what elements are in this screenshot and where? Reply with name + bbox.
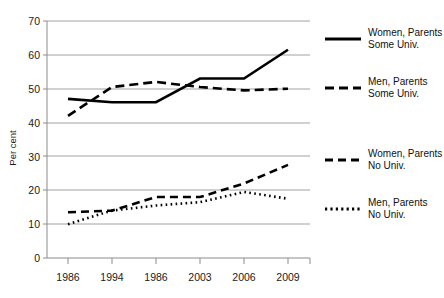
- legend-item-women-some-univ[interactable]: Women, Parents Some Univ.: [325, 27, 442, 50]
- x-tick-label-1: 1994: [100, 271, 124, 283]
- legend-label-line2: No Univ.: [368, 209, 406, 220]
- legend-item-women-no-univ[interactable]: Women, Parents No Univ.: [325, 148, 442, 171]
- legend-label-line1: Women, Parents: [368, 27, 442, 38]
- legend-label-line1: Men, Parents: [368, 76, 427, 87]
- series-men-parents-no-univ: [68, 192, 288, 224]
- series-women-parents-some-univ: [68, 50, 288, 102]
- y-tick-label-70: 70: [28, 15, 40, 27]
- legend-label-line2: Some Univ.: [368, 39, 419, 50]
- legend-item-men-no-univ[interactable]: Men, Parents No Univ.: [325, 197, 427, 220]
- series-men-parents-some-univ: [68, 82, 288, 116]
- x-tick-label-5: 2009: [276, 271, 300, 283]
- line-chart: Per cent 70 60 50 40 30 20 10 0: [0, 0, 444, 298]
- x-tick-label-4: 2006: [232, 271, 256, 283]
- x-tick-label-0: 1986: [56, 271, 80, 283]
- y-tick-label-10: 10: [28, 218, 40, 230]
- y-tick-label-0: 0: [34, 252, 40, 264]
- chart-container: Per cent 70 60 50 40 30 20 10 0: [0, 0, 444, 298]
- legend-label-line1: Men, Parents: [368, 197, 427, 208]
- y-tick-label-50: 50: [28, 83, 40, 95]
- legend-label-line1: Women, Parents: [368, 148, 442, 159]
- series-women-parents-no-univ: [68, 165, 288, 212]
- legend-label-line2: Some Univ.: [368, 88, 419, 99]
- x-tick-label-2: 1986: [144, 271, 168, 283]
- y-tick-label-60: 60: [28, 49, 40, 61]
- x-tick-label-3: 2003: [188, 271, 212, 283]
- y-tick-label-40: 40: [28, 117, 40, 129]
- legend-item-men-some-univ[interactable]: Men, Parents Some Univ.: [325, 76, 427, 99]
- y-tick-label-30: 30: [28, 151, 40, 163]
- legend: Women, Parents Some Univ. Men, Parents S…: [325, 27, 442, 220]
- legend-label-line2: No Univ.: [368, 160, 406, 171]
- y-axis-title: Per cent: [7, 130, 18, 166]
- y-tick-label-20: 20: [28, 184, 40, 196]
